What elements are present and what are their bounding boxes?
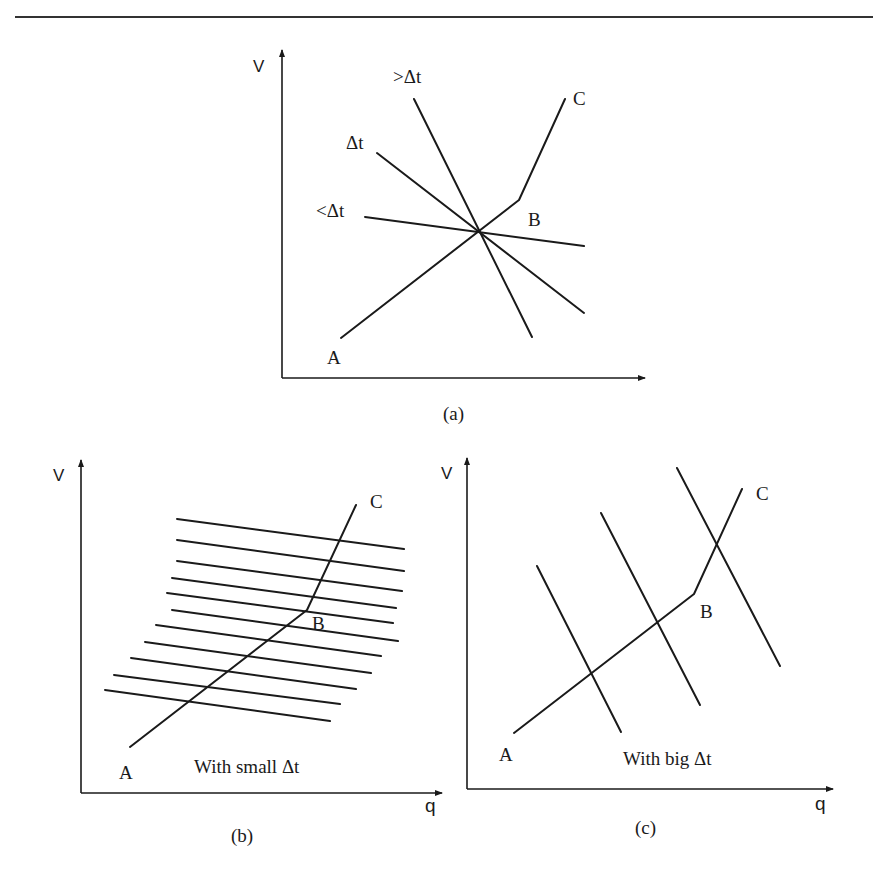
line-greater-dt <box>414 99 532 337</box>
panel-a: V >Δt Δt <Δt C B A (a) <box>253 50 645 425</box>
point-label-b: B <box>312 613 325 634</box>
dt-line <box>601 513 700 705</box>
panel-c: V q C B A With big Δt (c) <box>441 458 833 839</box>
label-less-dt: <Δt <box>316 200 345 221</box>
panel-b: V q C B A With small Δt (b) <box>53 460 442 847</box>
point-label-c: C <box>370 491 383 512</box>
point-label-a: A <box>327 347 341 368</box>
big-dt-lines <box>537 468 780 732</box>
point-label-b: B <box>528 209 541 230</box>
caption-b: (b) <box>231 825 253 847</box>
dt-line <box>172 578 396 608</box>
x-axis-label: q <box>425 795 436 816</box>
annotation-small-dt: With small Δt <box>194 756 300 777</box>
label-dt: Δt <box>346 132 364 153</box>
dt-line <box>537 566 621 732</box>
dt-line <box>105 690 330 721</box>
caption-a: (a) <box>443 403 464 425</box>
dt-line <box>167 593 393 623</box>
annotation-big-dt: With big Δt <box>623 748 712 769</box>
y-axis-label: V <box>253 57 265 76</box>
point-label-a: A <box>119 762 133 783</box>
point-label-a: A <box>499 744 513 765</box>
label-greater-dt: >Δt <box>393 66 422 87</box>
dt-line <box>145 642 371 673</box>
y-axis-label: V <box>53 466 65 485</box>
caption-c: (c) <box>635 817 656 839</box>
dt-line <box>114 675 340 704</box>
point-label-b: B <box>700 601 713 622</box>
dt-line <box>172 610 398 641</box>
x-axis-label: q <box>815 793 826 814</box>
y-axis-label: V <box>441 464 453 483</box>
small-dt-lines <box>105 519 404 721</box>
point-label-c: C <box>573 88 586 109</box>
dt-line <box>131 658 356 689</box>
figure-canvas: V >Δt Δt <Δt C B A (a) V q <box>0 0 873 885</box>
point-label-c: C <box>756 483 769 504</box>
